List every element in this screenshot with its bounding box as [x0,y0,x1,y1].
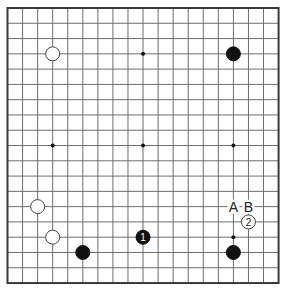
move-number: 1 [140,232,146,243]
black-stone: 1 [136,230,150,244]
black-stone-icon [226,245,240,259]
star-point [141,144,145,148]
black-stone-icon [76,245,90,259]
black-stone [226,47,240,61]
white-stone: 2 [241,215,255,229]
white-stone [46,47,60,61]
star-point [141,52,145,56]
position-marker-b: B [244,199,253,215]
move-number: 2 [246,217,252,228]
position-marker-a: A [229,199,239,215]
white-stone-icon [46,47,60,61]
white-stone-icon [31,200,45,214]
white-stone-icon [46,230,60,244]
white-stone [31,200,45,214]
star-point [51,144,55,148]
black-stone [226,245,240,259]
black-stone [76,245,90,259]
go-board: AB 12 [0,0,286,294]
black-stone-icon [226,47,240,61]
white-stone [46,230,60,244]
star-point [231,144,235,148]
star-point [231,235,235,239]
